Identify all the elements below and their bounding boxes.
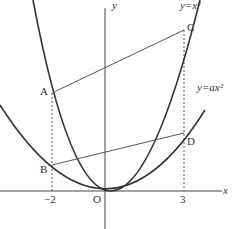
tick-label-neg2: −2 [44,194,56,205]
point-D-label: D [187,136,195,147]
y-axis-label: y [112,0,117,11]
parabola-diagram: y y=x² y=ax² C A B D x −2 O 3 [0,0,232,229]
parabola-x-squared [33,0,200,191]
x-axis-label: x [223,185,228,196]
tick-label-3: 3 [180,194,186,205]
diagram-canvas [0,0,232,229]
point-A-label: A [40,86,48,97]
curve-label-x-squared: y=x² [180,0,201,11]
curve-label-ax-squared: y=ax² [197,82,223,93]
segment-BD [52,133,184,165]
origin-label: O [93,194,101,205]
point-C-label: C [187,22,194,33]
point-B-label: B [40,164,47,175]
segment-AC [52,30,184,93]
parabola-ax-squared [0,105,205,189]
